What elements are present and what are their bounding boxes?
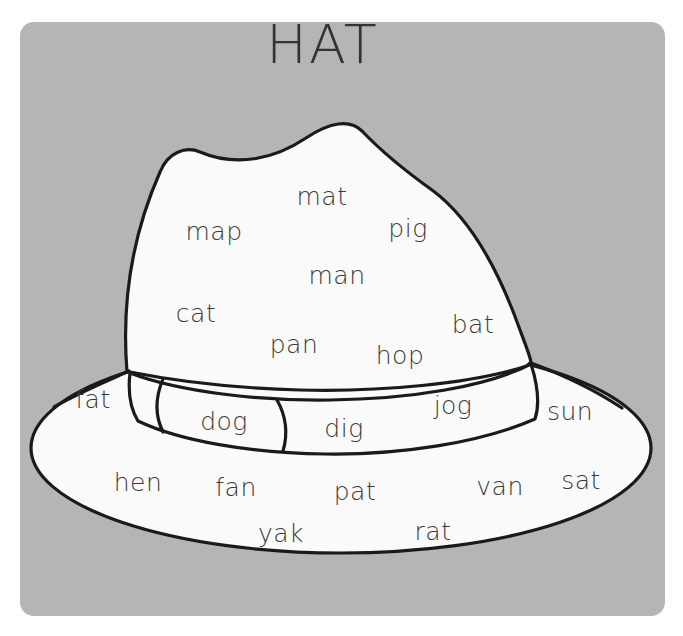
hat-word: fat bbox=[75, 385, 110, 414]
hat-crown bbox=[126, 124, 531, 391]
hat-word: mat bbox=[297, 182, 348, 211]
worksheet-canvas: HAT matmappigmancatpanhopbatfatdogdigjog… bbox=[0, 0, 683, 636]
hat-word: pan bbox=[270, 330, 319, 359]
hat-word: man bbox=[308, 261, 365, 290]
hat-word: bat bbox=[452, 310, 495, 339]
hat-word: dig bbox=[324, 414, 363, 443]
hat-word: cat bbox=[176, 299, 216, 328]
hat-word: pat bbox=[334, 477, 377, 506]
hat-word: rat bbox=[415, 517, 452, 546]
hat-word: hen bbox=[114, 468, 163, 497]
fedora-hat-illustration bbox=[0, 0, 683, 636]
hat-word: dog bbox=[200, 407, 248, 436]
hat-word: map bbox=[185, 217, 242, 246]
hat-word: sun bbox=[547, 397, 593, 426]
hat-word: fan bbox=[215, 473, 256, 502]
hat-word: jog bbox=[434, 391, 473, 420]
hat-word: sat bbox=[561, 466, 601, 495]
hat-word: yak bbox=[258, 519, 304, 548]
hat-word: pig bbox=[388, 214, 427, 243]
hat-word: van bbox=[476, 472, 523, 501]
hat-word: hop bbox=[376, 341, 425, 370]
